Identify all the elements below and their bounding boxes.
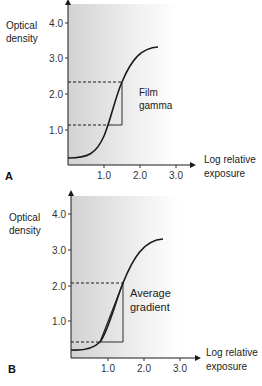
y-axis-label: Optical xyxy=(6,20,37,31)
x-ticks: 1.0 2.0 3.0 xyxy=(101,358,187,374)
x-tick-label: 1.0 xyxy=(97,170,111,181)
annotation-film-gamma: Film xyxy=(139,87,158,98)
annotation-film-gamma: gamma xyxy=(139,100,173,111)
x-tick-label: 1.0 xyxy=(101,363,115,374)
panel-a: 4.0 3.0 2.0 1.0 1.0 2.0 3.0 Optical dens… xyxy=(5,2,256,182)
x-axis-label: exposure xyxy=(206,361,248,372)
y-tick-label: 3.0 xyxy=(52,245,66,256)
y-ticks: 4.0 3.0 2.0 1.0 xyxy=(49,18,68,136)
y-tick-label: 2.0 xyxy=(49,89,63,100)
y-axis-label: density xyxy=(9,225,41,236)
y-tick-label: 1.0 xyxy=(49,125,63,136)
y-axis-label: Optical xyxy=(9,212,40,223)
y-tick-label: 3.0 xyxy=(49,53,63,64)
x-axis-label: Log relative xyxy=(204,154,256,165)
y-tick-label: 1.0 xyxy=(52,316,66,327)
y-ticks: 4.0 3.0 2.0 1.0 xyxy=(52,209,71,327)
figure: 4.0 3.0 2.0 1.0 1.0 2.0 3.0 Optical dens… xyxy=(0,0,262,386)
panel-label-b: B xyxy=(8,363,16,375)
panel-label-a: A xyxy=(5,170,13,182)
annotation-average-gradient: Average xyxy=(130,287,171,299)
y-tick-label: 4.0 xyxy=(49,18,63,29)
y-axis-label: density xyxy=(6,33,38,44)
x-ticks: 1.0 2.0 3.0 xyxy=(97,165,183,181)
annotation-average-gradient: gradient xyxy=(130,301,170,313)
panel-b: 4.0 3.0 2.0 1.0 1.0 2.0 3.0 Optical dens… xyxy=(8,193,258,375)
x-axis-label: Log relative xyxy=(206,347,258,358)
x-tick-label: 2.0 xyxy=(137,363,151,374)
x-axis-label: exposure xyxy=(204,168,246,179)
x-tick-label: 3.0 xyxy=(169,170,183,181)
y-tick-label: 2.0 xyxy=(52,281,66,292)
x-tick-label: 3.0 xyxy=(173,363,187,374)
x-tick-label: 2.0 xyxy=(133,170,147,181)
y-tick-label: 4.0 xyxy=(52,209,66,220)
